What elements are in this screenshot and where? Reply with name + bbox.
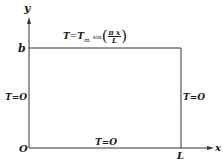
left-boundary-condition: T=O bbox=[5, 93, 27, 102]
y-axis-label: y bbox=[24, 3, 30, 14]
y-arrow-icon bbox=[27, 17, 31, 24]
x-arrow-icon bbox=[207, 146, 214, 150]
origin-label: O bbox=[19, 144, 28, 154]
top-boundary-condition: T=Tm sin(π xL) bbox=[63, 29, 127, 44]
right-boundary-condition: T=O bbox=[183, 93, 205, 102]
L-label: L bbox=[177, 151, 184, 161]
x-axis-label: x bbox=[215, 143, 221, 153]
b-label: b bbox=[18, 43, 26, 54]
bottom-boundary-condition: T=O bbox=[95, 138, 117, 147]
